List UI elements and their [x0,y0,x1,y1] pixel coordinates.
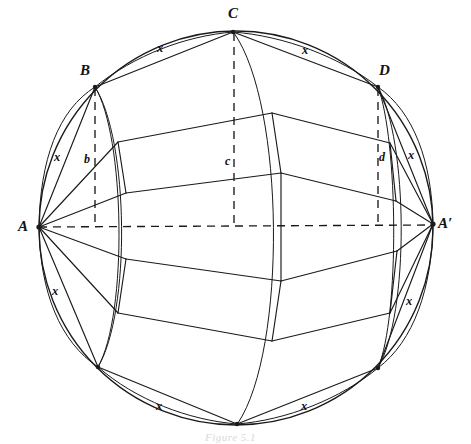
vertex-dot-Aprime [430,221,435,226]
vertex-label-B: B [80,63,90,78]
vertex-dot-D [376,85,380,89]
edge-label-x-right-upper: x [408,149,414,162]
vertex-dot-Cprime [235,422,239,426]
chord-Bprime-Cprime [98,367,237,424]
ring-lower-front-left [126,259,281,281]
vertex-label-D: D [379,63,390,78]
vertex-dot-B [93,85,97,89]
meridian-C-front-arc [234,33,274,423]
edge-label-x-bottom-left: x [156,400,162,413]
vertex-label-A-prime: A′ [438,216,452,231]
edge-label-x-bottom-right: x [301,400,307,413]
figure-root: A A′ C B D b c d x x x x x x x x Figure … [0,0,471,444]
dashed-axis-A-Aprime [39,225,433,227]
connector-C-meridian-lower [272,281,281,341]
ring-second-front-left [126,173,281,193]
edge-label-x-left-lower: x [52,285,58,298]
diagram-svg [0,0,471,444]
edge-label-x-right-lower: x [406,295,412,308]
foot-label-d: d [379,151,385,163]
chord-B-C [95,32,233,87]
vertex-label-A: A [18,219,28,234]
ring-bottom-front-left [118,313,272,341]
vertex-dot-Dprime [376,366,380,370]
meridian-D-front-arc-2 [378,87,394,368]
chord-D-Aprime [378,87,433,224]
ring-second-front-right [281,173,396,201]
vertex-dot-C [231,30,235,34]
spoke-A-to-lower-ring [39,227,126,259]
connector-C-meridian-upper [272,113,281,173]
vertex-label-C: C [228,6,238,21]
ring-lower-front-right [281,251,397,281]
ring-bottom-front-right [272,313,390,341]
edge-label-x-top-left: x [157,42,163,55]
edge-label-x-top-right: x [302,44,308,57]
chord-A-Bprime [39,227,98,367]
chord-Cprime-Dprime [237,368,378,424]
vertex-dot-A [36,224,41,229]
vertex-dot-Bprime [96,365,100,369]
foot-label-c: c [225,155,230,167]
edge-label-x-left-upper: x [54,151,60,164]
figure-caption: Figure 5.1 [205,432,256,443]
spoke-A-to-upper-ring [39,142,118,227]
spoke-A-to-second-ring [39,193,126,227]
connector-B-meridian-upper [118,142,126,193]
ring-upper-front-right [272,113,390,143]
ring-upper-front-left [118,113,272,142]
foot-label-b: b [84,153,90,165]
spoke-A-to-bottom-ring [39,227,118,313]
meridian-D-front-arc [378,87,401,368]
